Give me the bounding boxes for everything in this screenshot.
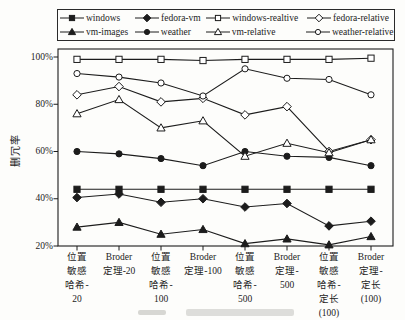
x-axis-label-line: 20 (54, 292, 100, 306)
open-diamond-marker (241, 111, 250, 120)
open-square-marker (326, 56, 332, 62)
open-triangle-marker (115, 95, 123, 102)
x-axis-label-line: 敏感 (306, 264, 352, 278)
x-axis-label-line: 500 (222, 292, 268, 306)
series-windows-realtive (74, 55, 374, 64)
x-axis-label-line: Broder (264, 250, 310, 264)
open-circle-marker (242, 66, 248, 72)
filled-diamond-marker (283, 199, 292, 208)
x-axis-label: 位置敏感哈希-100 (138, 250, 184, 306)
open-circle-marker (284, 75, 290, 81)
x-axis-label-line: 哈希- (222, 278, 268, 292)
y-tick-label: 20% (21, 241, 53, 252)
x-axis-label-line: 100 (138, 292, 184, 306)
filled-square-marker (200, 186, 206, 192)
x-axis-label-line: Broder (180, 250, 226, 264)
x-axis-label-line: 位置 (138, 250, 184, 264)
scanned-line-chart-figure: windowsfedora-vmwindows-realtivefedora-r… (0, 0, 405, 320)
open-square-marker (74, 56, 80, 62)
x-axis-label: Broder定理-定长(100) (348, 250, 394, 306)
y-tick-label: 80% (21, 99, 53, 110)
filled-diamond-marker (199, 194, 208, 203)
open-triangle-marker (283, 139, 291, 146)
x-axis-label-line: 敏感 (138, 264, 184, 278)
x-axis-label: 位置敏感哈希-定长(100) (306, 250, 352, 320)
y-tick-label: 100% (21, 52, 53, 63)
filled-square-marker (242, 186, 248, 192)
x-axis-label-line: 定理-20 (96, 264, 142, 278)
open-circle-marker (200, 93, 206, 99)
open-square-marker (242, 56, 248, 62)
y-axis-title: 删冗率 (7, 127, 20, 175)
filled-triangle-marker (115, 218, 123, 225)
filled-circle-marker (284, 153, 290, 159)
open-diamond-marker (73, 91, 82, 100)
filled-triangle-marker (367, 232, 375, 239)
x-axis-label-line: (100) (306, 306, 352, 320)
x-axis-label-line: 定长 (348, 278, 394, 292)
x-axis-label-line: 哈希- (54, 278, 100, 292)
open-diamond-marker (115, 82, 124, 91)
y-tick-label: 40% (21, 193, 53, 204)
series-fedora-relative (73, 82, 376, 156)
x-axis-label: 位置敏感哈希-20 (54, 250, 100, 306)
x-axis-label-line: 位置 (54, 250, 100, 264)
x-axis-label-line: Broder (348, 250, 394, 264)
filled-circle-marker (74, 148, 80, 154)
filled-square-marker (74, 186, 80, 192)
x-axis-label-line: 敏感 (222, 264, 268, 278)
filled-square-marker (368, 186, 374, 192)
series-line (77, 87, 371, 152)
open-circle-marker (326, 76, 332, 82)
x-axis-label-line: 500 (264, 278, 310, 292)
open-circle-marker (116, 74, 122, 80)
filled-diamond-marker (73, 193, 82, 202)
x-axis-label-line: Broder (96, 250, 142, 264)
filled-diamond-marker (241, 203, 250, 212)
x-axis-label-line: 位置 (306, 250, 352, 264)
x-axis-label: Broder定理-20 (96, 250, 142, 278)
x-axis-label-line: 敏感 (54, 264, 100, 278)
x-axis-label-line: 定理- (348, 264, 394, 278)
cutoff-caption-remnant (186, 309, 294, 316)
filled-circle-marker (158, 155, 164, 161)
x-axis-label: Broder定理-100 (180, 250, 226, 278)
x-axis-label-line: 定理- (264, 264, 310, 278)
x-axis-label-line: 定长 (306, 292, 352, 306)
cutoff-caption-remnant (138, 310, 166, 315)
open-square-marker (116, 56, 122, 62)
filled-square-marker (326, 186, 332, 192)
x-axis-label-line: (100) (348, 292, 394, 306)
x-axis-label-line: 位置 (222, 250, 268, 264)
filled-triangle-marker (199, 225, 207, 232)
filled-diamond-marker (367, 217, 376, 226)
filled-circle-marker (116, 151, 122, 157)
open-diamond-marker (157, 98, 166, 107)
open-square-marker (200, 57, 206, 63)
open-triangle-marker (199, 117, 207, 124)
x-axis-label-line: 哈希- (138, 278, 184, 292)
filled-circle-marker (200, 163, 206, 169)
open-square-marker (158, 56, 164, 62)
x-axis-label-line: 哈希- (306, 278, 352, 292)
series-line (77, 69, 371, 96)
filled-circle-marker (368, 163, 374, 169)
open-square-marker (284, 56, 290, 62)
filled-triangle-marker (283, 235, 291, 242)
open-circle-marker (74, 70, 80, 76)
filled-square-marker (284, 186, 290, 192)
x-axis-label: 位置敏感哈希-500 (222, 250, 268, 306)
x-axis-label: Broder定理-500 (264, 250, 310, 292)
open-circle-marker (368, 92, 374, 98)
open-circle-marker (158, 80, 164, 86)
filled-square-marker (158, 186, 164, 192)
filled-diamond-marker (325, 222, 334, 231)
series-vm-relative (73, 95, 375, 159)
y-tick-label: 60% (21, 146, 53, 157)
open-square-marker (368, 55, 374, 61)
series-line (77, 100, 371, 157)
filled-diamond-marker (157, 198, 166, 207)
x-axis-label-line: 定理-100 (180, 264, 226, 278)
